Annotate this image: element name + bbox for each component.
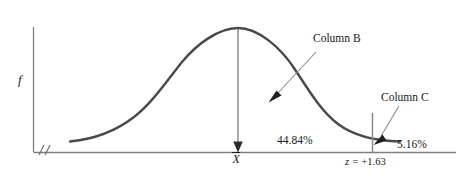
y-axis-label: f [18, 72, 22, 88]
z-label-prefix: z = [345, 156, 361, 167]
area-label-left-of-z: 44.84% [277, 134, 312, 146]
mean-indicator-arrow [233, 29, 243, 153]
mean-label-text: X [232, 152, 240, 166]
column-b-leader-arrow [269, 52, 317, 103]
z-label-value: +1.63 [361, 156, 385, 167]
area-label-right-of-z: 5.16% [397, 138, 427, 150]
axis-break-icon [39, 145, 50, 155]
normal-curve-figure: f Column B Column C 44.84% 5.16% X z = +… [0, 0, 473, 182]
annotation-column-b: Column B [313, 32, 361, 44]
annotation-column-c: Column C [381, 91, 429, 103]
z-value-label: z = +1.63 [345, 156, 386, 167]
mean-label: X [232, 152, 240, 167]
normal-curve-path [70, 28, 400, 142]
